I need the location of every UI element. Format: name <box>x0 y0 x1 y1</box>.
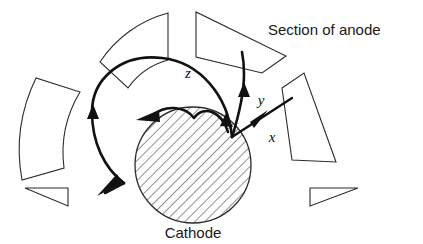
anode-segment-bottom-right <box>310 188 358 206</box>
anode-segment-right <box>282 73 336 162</box>
axis-y-arrow <box>232 52 250 137</box>
arrowhead-y <box>238 82 250 97</box>
magnetron-diagram: Section of anode Cathode z y x <box>0 0 423 244</box>
arrowhead-x <box>250 110 268 128</box>
axis-label-x: x <box>268 129 276 145</box>
axis-label-z: z <box>184 65 191 81</box>
anode-segment-upper-left <box>100 13 168 88</box>
anode-segment-left <box>19 78 80 180</box>
anode-label: Section of anode <box>268 21 381 38</box>
axis-label-y: y <box>256 92 265 108</box>
cathode-circle <box>135 107 251 223</box>
arrowhead-loop-left <box>87 104 99 119</box>
arrowhead-cycloid-left <box>136 110 160 122</box>
cathode-label: Cathode <box>165 224 222 241</box>
anode-segment-bottom-left <box>25 188 68 206</box>
